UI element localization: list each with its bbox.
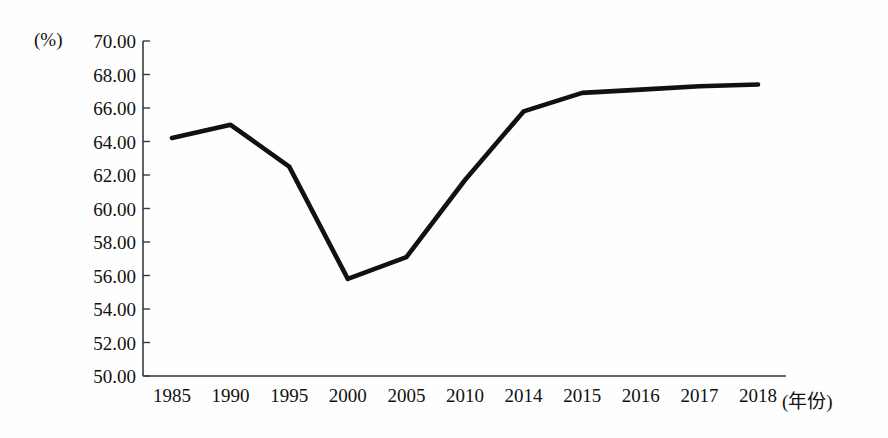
x-axis-tick-label: 1990 (212, 386, 250, 405)
x-axis-tick-label: 2016 (622, 386, 660, 405)
chart-figure: (%) 70.0068.0066.0064.0062.0060.0058.005… (0, 0, 888, 438)
x-axis-tick-label: 2015 (563, 386, 601, 405)
x-axis-tick-label: 2005 (387, 386, 425, 405)
x-axis-tick-labels: 1985199019952000200520102014201520162017… (0, 0, 888, 438)
x-axis-tick-label: 1995 (270, 386, 308, 405)
x-axis-tick-label: 1985 (153, 386, 191, 405)
x-axis-title: (年份) (782, 386, 833, 413)
x-axis-tick-label: 2017 (680, 386, 718, 405)
x-axis-tick-label: 2000 (329, 386, 367, 405)
x-axis-tick-label: 2010 (446, 386, 484, 405)
x-axis-tick-label: 2014 (505, 386, 543, 405)
x-axis-tick-label: 2018 (739, 386, 777, 405)
